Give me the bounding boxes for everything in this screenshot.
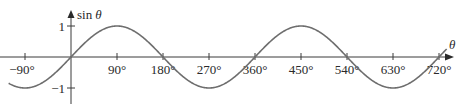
x-tick-label: 180° [151,62,176,77]
x-tick-label: 720° [427,62,452,77]
x-tick-label: 90° [108,62,126,77]
x-tick-label: 540° [335,62,360,77]
y-axis-label: sinθ [77,7,102,22]
x-tick-label: 630° [381,62,406,77]
y-tick-label: −1 [51,81,65,96]
x-tick-label: 360° [243,62,268,77]
x-axis-label: θ [449,37,456,52]
y-axis-label-fn: sin [77,7,93,22]
y-axis-arrow-icon [68,10,75,18]
x-tick-label: −90° [9,62,35,77]
x-tick-label: 270° [197,62,222,77]
sine-graph: −90°90°180°270°360°450°540°630°720°1−1 s… [0,0,467,107]
x-axis-arrow-icon [445,54,454,61]
x-tick-label: 450° [289,62,314,77]
y-axis-label-var: θ [95,7,102,22]
y-tick-label: 1 [59,19,66,34]
